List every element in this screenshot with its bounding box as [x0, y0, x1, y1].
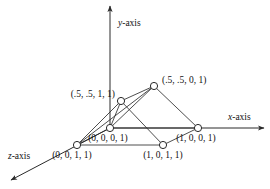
vertex-label-origin: (0, 0, 0, 1): [88, 133, 128, 144]
vertex-label-x-unit: (1, 0, 0, 1): [176, 133, 216, 144]
vertex-label-xz-unit: (1, 0, 1, 1): [143, 150, 183, 161]
vertex-label-z-unit: (0, 0, 1, 1): [52, 150, 92, 161]
vertex-z-unit: [73, 141, 80, 148]
edge-apexback-xunit: [154, 86, 198, 128]
vertex-origin: [106, 124, 113, 131]
vertex-apex-front: [117, 97, 124, 104]
vertex-x-unit: [194, 124, 201, 131]
edge-origin-apexback: [110, 86, 154, 128]
z-axis-label-suffix: -axis: [12, 151, 31, 161]
x-axis-label: x-axis: [227, 112, 251, 122]
vertex-apex-back: [150, 82, 157, 89]
vertex-label-apex-back: (.5, .5, 0, 1): [162, 75, 206, 86]
axes-group: [11, 6, 264, 180]
edge-origin-apexfront: [110, 101, 121, 128]
z-axis-label: z-axis: [7, 151, 30, 161]
vertex-label-apex-front: (.5, .5, 1, 1): [71, 89, 115, 100]
x-axis-label-suffix: -axis: [232, 112, 251, 122]
y-axis-label-suffix: -axis: [122, 18, 141, 28]
vertex-xz-unit: [159, 141, 166, 148]
coordinate-diagram: y-axisx-axisz-axis (0, 0, 0, 1)(1, 0, 0,…: [0, 0, 270, 189]
y-axis-label: y-axis: [117, 18, 141, 28]
